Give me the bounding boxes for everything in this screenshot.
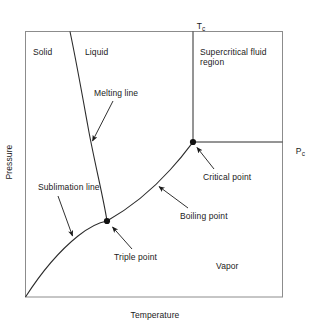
annotation-label-sublimation-line: Sublimation line [38, 182, 104, 192]
annotation-label-boiling-point: Boiling point [180, 211, 228, 221]
phase-diagram-figure: Solid Liquid Supercritical fluid region … [0, 0, 310, 328]
region-label-vapor: Vapor [216, 261, 239, 271]
critical-pressure-symbol: P [296, 146, 302, 156]
region-label-supercritical-fluid: Supercritical fluid region [200, 47, 278, 67]
triple-point-marker [104, 218, 110, 224]
critical-pressure-subscript: c [302, 150, 305, 157]
annotation-label-melting-line: Melting line [94, 88, 138, 98]
critical-pressure-label: Pc [286, 136, 305, 167]
critical-point-marker [190, 139, 196, 145]
critical-temperature-label: Tc [187, 11, 205, 42]
region-label-liquid: Liquid [85, 47, 108, 57]
critical-temperature-subscript: c [202, 25, 205, 32]
y-axis-label: Pressure [4, 132, 14, 192]
annotation-label-triple-point: Triple point [114, 252, 157, 262]
region-label-solid: Solid [33, 47, 52, 57]
annotation-label-critical-point: Critical point [203, 172, 251, 182]
x-axis-label: Temperature [0, 310, 310, 320]
